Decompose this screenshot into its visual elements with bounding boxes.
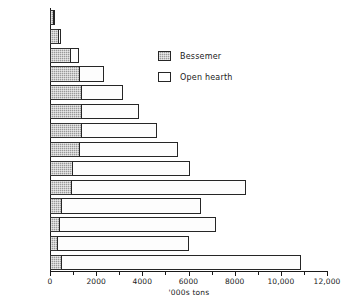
bar-segment-open-hearth bbox=[79, 142, 178, 157]
bar-row bbox=[50, 48, 79, 63]
bar-segment-open-hearth bbox=[57, 236, 189, 251]
bar-row bbox=[50, 255, 301, 270]
bar-segment-bessemer bbox=[50, 180, 72, 195]
legend-item-open-hearth: Open hearth bbox=[158, 69, 233, 85]
bar-segment-open-hearth bbox=[72, 161, 190, 176]
bar-segment-open-hearth bbox=[81, 123, 157, 138]
bar-row bbox=[50, 66, 104, 81]
x-tick-6000 bbox=[189, 272, 190, 276]
legend-item-bessemer: Bessemer bbox=[158, 48, 233, 64]
x-tick-3000 bbox=[119, 272, 120, 275]
x-tick-label-12000: 12,000 bbox=[314, 277, 341, 286]
bar-row bbox=[50, 104, 139, 119]
x-tick-11000 bbox=[304, 272, 305, 275]
bar-segment-bessemer bbox=[50, 161, 73, 176]
chart-legend: Bessemer Open hearth bbox=[158, 48, 233, 90]
bar-segment-open-hearth bbox=[81, 85, 123, 100]
bar-segment-bessemer bbox=[50, 48, 71, 63]
bar-segment-open-hearth bbox=[70, 48, 79, 63]
x-axis-title: '000s tons bbox=[50, 288, 328, 297]
legend-label-open-hearth: Open hearth bbox=[180, 73, 233, 82]
bar-row bbox=[50, 198, 201, 213]
bar-segment-bessemer bbox=[50, 66, 80, 81]
x-tick-4000 bbox=[142, 272, 143, 276]
bar-row bbox=[50, 142, 178, 157]
bar-row bbox=[50, 123, 157, 138]
x-tick-label-8000: 8000 bbox=[225, 277, 245, 286]
bar-row bbox=[50, 236, 189, 251]
x-tick-10000 bbox=[281, 272, 282, 276]
bar-row bbox=[50, 85, 123, 100]
x-tick-2000 bbox=[96, 272, 97, 276]
x-tick-label-0: 0 bbox=[48, 277, 53, 286]
x-tick-12000 bbox=[327, 272, 328, 276]
x-tick-8000 bbox=[235, 272, 236, 276]
bar-segment-open-hearth bbox=[61, 255, 301, 270]
x-tick-label-6000: 6000 bbox=[179, 277, 199, 286]
x-tick-label-4000: 4000 bbox=[133, 277, 153, 286]
x-tick-5000 bbox=[165, 272, 166, 275]
x-tick-0 bbox=[50, 272, 51, 276]
bar-segment-open-hearth bbox=[58, 29, 61, 44]
bar-segment-open-hearth bbox=[53, 10, 55, 25]
bar-row bbox=[50, 180, 246, 195]
legend-swatch-open-hearth-icon bbox=[158, 72, 171, 82]
bar-segment-open-hearth bbox=[79, 66, 104, 81]
bar-segment-open-hearth bbox=[81, 104, 139, 119]
x-tick-1000 bbox=[73, 272, 74, 275]
bar-row bbox=[50, 10, 55, 25]
bar-row bbox=[50, 29, 61, 44]
bar-row bbox=[50, 161, 190, 176]
steel-production-bar-chart: 1871-475-980-485-990-495-91900-405-910-1… bbox=[0, 0, 350, 306]
legend-label-bessemer: Bessemer bbox=[180, 52, 221, 61]
x-tick-9000 bbox=[258, 272, 259, 275]
bar-segment-open-hearth bbox=[59, 217, 216, 232]
x-tick-7000 bbox=[212, 272, 213, 275]
bar-segment-bessemer bbox=[50, 104, 82, 119]
x-tick-label-2000: 2000 bbox=[86, 277, 106, 286]
bar-row bbox=[50, 217, 216, 232]
bar-segment-bessemer bbox=[50, 142, 80, 157]
bar-segment-bessemer bbox=[50, 123, 82, 138]
bar-segment-open-hearth bbox=[71, 180, 246, 195]
bar-segment-open-hearth bbox=[61, 198, 202, 213]
x-tick-label-10000: 10,000 bbox=[267, 277, 294, 286]
legend-swatch-bessemer-icon bbox=[158, 51, 171, 61]
bar-segment-bessemer bbox=[50, 85, 82, 100]
